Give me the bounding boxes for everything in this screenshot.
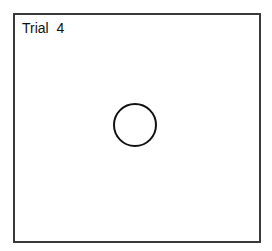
circle-stimulus-icon: [113, 103, 157, 147]
trial-label: Trial 4: [22, 20, 64, 36]
trial-frame: Trial 4: [13, 13, 261, 243]
